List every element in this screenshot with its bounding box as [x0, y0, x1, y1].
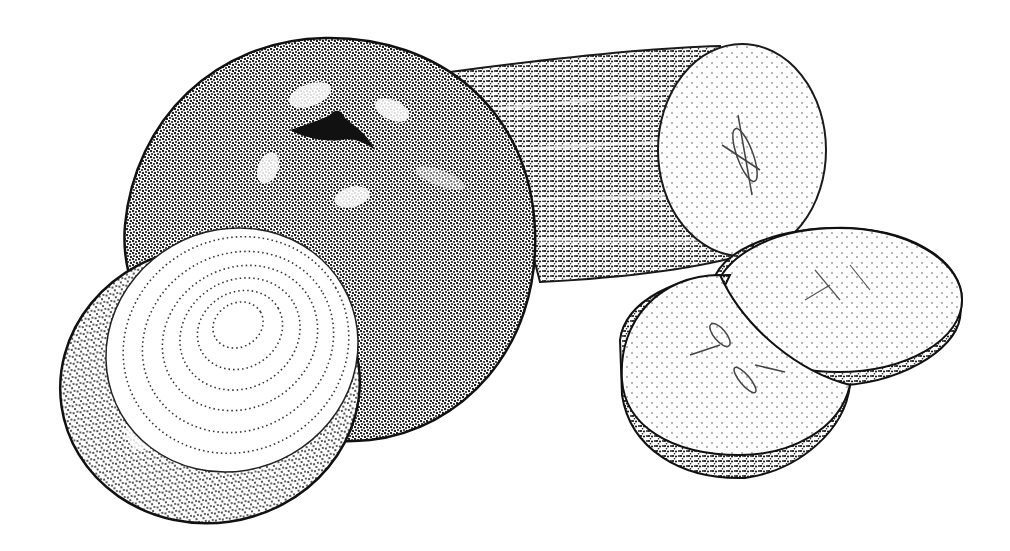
illustration-canvas: [0, 0, 1010, 551]
vegetable-illustration: [0, 0, 1010, 551]
cucumber-cut-end: [658, 44, 826, 256]
